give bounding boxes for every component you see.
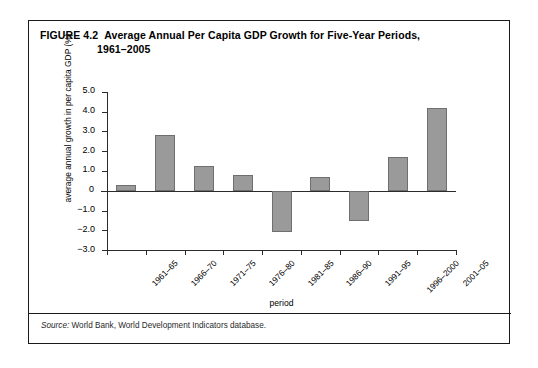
y-axis-title: average annual growth in per capita GDP … [63,26,73,211]
bar [272,191,292,233]
bar [155,135,175,191]
figure-frame: FIGURE 4.2Average Annual Per Capita GDP … [28,20,510,344]
y-tick-label: 0 [54,184,94,194]
y-tick: 5.0 [102,92,107,93]
x-tick-label: 1976–80 [266,258,296,288]
x-tick [185,250,186,255]
y-tick: 4.0 [102,112,107,113]
x-tick [262,250,263,255]
source-label: Source: [41,321,69,330]
y-tick-label: −2.0 [55,224,95,234]
x-tick-label: 2001–05 [460,258,490,288]
x-tick [301,250,302,255]
x-tick-label: 1981–85 [305,258,335,288]
x-tick [223,250,224,255]
x-tick-label: 1996–2000 [424,258,461,295]
x-tick [107,250,108,255]
bar [233,175,253,191]
bar [194,166,214,191]
x-tick [146,250,147,255]
x-tick [417,250,418,255]
plot-canvas: 5.04.03.02.01.00−1.0−2.0−3.0 1961–651966… [107,92,456,251]
x-axis-line [107,250,456,251]
chart-plot-area: average annual growth in per capita GDP … [29,21,511,321]
y-tick-label: 1.0 [55,164,95,174]
source-note: Source: World Bank, World Development In… [41,321,266,330]
x-tick [340,250,341,255]
y-tick: 1.0 [102,171,107,172]
y-axis-line [107,92,108,251]
x-tick-label: 1966–70 [189,258,219,288]
source-divider [29,313,511,314]
bar [427,108,447,191]
bar [310,177,330,191]
y-tick: −2.0 [102,230,107,231]
source-text: World Bank, World Development Indicators… [69,321,266,330]
y-tick-label: 5.0 [55,85,95,95]
x-tick-label: 1991–95 [383,258,413,288]
y-tick-label: 2.0 [55,145,95,155]
bar [349,191,369,221]
x-tick-label: 1971–75 [227,258,257,288]
y-tick: −1.0 [102,211,107,212]
y-tick-label: 3.0 [55,125,95,135]
bar [116,185,136,191]
y-tick: 0 [101,191,107,192]
y-tick-label: −3.0 [55,244,95,254]
x-tick-label: 1961–65 [150,258,180,288]
y-tick-label: −1.0 [55,204,95,214]
bar [388,157,408,191]
x-tick-label: 1986–90 [344,258,374,288]
x-tick [378,250,379,255]
x-tick [456,250,457,255]
y-tick: 2.0 [102,151,107,152]
x-axis-title: period [107,298,456,308]
y-tick-label: 4.0 [55,105,95,115]
y-tick: 3.0 [102,131,107,132]
